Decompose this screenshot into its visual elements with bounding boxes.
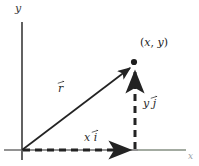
y-component-scalar: y xyxy=(143,97,149,110)
diagram-canvas xyxy=(0,0,199,166)
vector-components-diagram: y x (x, y) r y j xyxy=(0,0,199,166)
point-label: (x, y) xyxy=(140,37,168,48)
resultant-symbol: r xyxy=(58,82,63,95)
x-axis-label: x xyxy=(188,152,193,161)
point-label-close: ) xyxy=(164,36,168,49)
x-component-label: x i xyxy=(84,132,97,143)
j-unit-symbol: j xyxy=(153,97,156,110)
resultant-vector xyxy=(22,68,130,150)
point-label-comma: , xyxy=(151,36,158,49)
resultant-vector-label: r xyxy=(58,83,63,94)
y-component-label: y j xyxy=(143,98,156,109)
y-axis-label: y xyxy=(15,3,21,14)
x-component-scalar: x xyxy=(84,131,90,144)
point-marker xyxy=(131,59,137,65)
i-unit-symbol: i xyxy=(94,131,98,144)
